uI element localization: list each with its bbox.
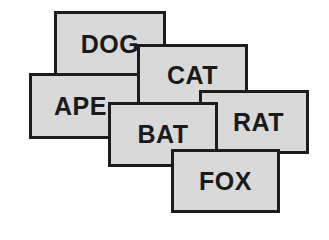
card-rat-label: RAT bbox=[233, 108, 284, 137]
card-bat-label: BAT bbox=[137, 120, 188, 149]
card-cat-label: CAT bbox=[167, 61, 218, 90]
card-ape-label: APE bbox=[54, 92, 107, 121]
card-fox-label: FOX bbox=[199, 167, 252, 196]
card-fox: FOX bbox=[171, 149, 280, 213]
card-dog-label: DOG bbox=[81, 30, 139, 59]
